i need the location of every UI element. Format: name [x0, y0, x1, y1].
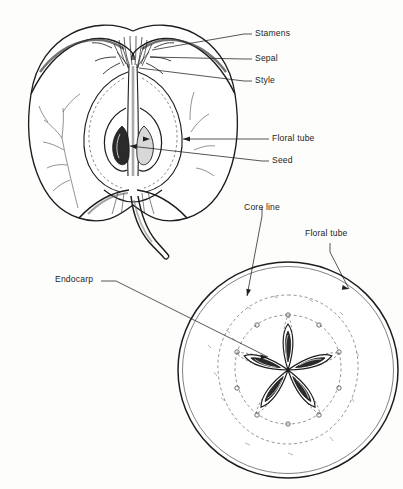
label-floral-tube-longitudinal: Floral tube: [272, 134, 315, 143]
apple-anatomy-figure: Stamens Sepal Style Floral tube Seed Cor…: [0, 0, 403, 489]
longitudinal-section-view: [29, 25, 238, 259]
label-stamens: Stamens: [255, 29, 290, 38]
label-seed: Seed: [272, 156, 293, 165]
label-floral-tube-transverse: Floral tube: [305, 229, 348, 238]
label-style: Style: [255, 76, 275, 85]
diagram-canvas: [0, 0, 403, 489]
label-endocarp: Endocarp: [55, 275, 93, 284]
label-core-line: Core line: [244, 203, 280, 212]
stem-tip: [164, 256, 169, 259]
label-sepal: Sepal: [255, 54, 278, 63]
transverse-section-view: [178, 262, 398, 478]
